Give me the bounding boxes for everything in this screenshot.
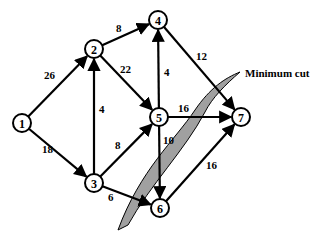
node-label: 7 [238,111,244,125]
node-label: 2 [91,43,97,57]
edge-arrow-icon [29,129,86,177]
edge-arrow-icon [102,24,149,45]
edge-arrow-icon [100,124,152,176]
edge-capacity-label: 18 [42,143,54,155]
edge-capacity-label: 8 [115,139,121,151]
edge-arrow-icon [159,126,160,198]
edge-2-4: 8 [102,22,149,45]
node-7: 7 [232,108,250,126]
node-5: 5 [150,108,168,126]
node-6: 6 [151,199,169,217]
edge-capacity-label: 6 [108,191,114,203]
node-label: 3 [91,177,97,191]
edge-capacity-label: 10 [163,134,175,146]
edge-capacity-label: 22 [120,63,132,75]
edge-capacity-label: 4 [164,66,170,78]
edge-3-2: 4 [94,59,105,174]
edge-3-5: 8 [100,124,152,176]
edge-capacity-label: 16 [206,159,218,171]
edge-capacity-label: 26 [44,69,56,81]
edge-arrow-icon [28,56,87,116]
minimum-cut-label: Minimum cut [245,67,310,79]
edge-5-4: 4 [158,30,170,108]
node-2: 2 [85,40,103,58]
node-4: 4 [149,11,167,29]
node-label: 6 [157,202,163,216]
edge-capacity-label: 4 [99,103,105,115]
node-label: 4 [155,14,161,28]
edge-capacity-label: 12 [196,50,208,62]
node-label: 1 [19,117,25,131]
edge-1-3: 18 [29,129,86,177]
edge-capacity-label: 16 [178,102,190,114]
node-label: 5 [156,111,162,125]
edge-arrow-icon [164,27,235,110]
edge-arrow-icon [158,30,159,108]
flow-network-diagram: 2618822486412161016 1234567 Minimum cut [0,0,324,237]
edge-4-7: 12 [164,27,235,110]
node-3: 3 [85,174,103,192]
edge-2-5: 22 [100,56,152,110]
edge-capacity-label: 8 [116,22,122,34]
edge-1-2: 26 [28,56,87,116]
node-1: 1 [13,114,31,132]
